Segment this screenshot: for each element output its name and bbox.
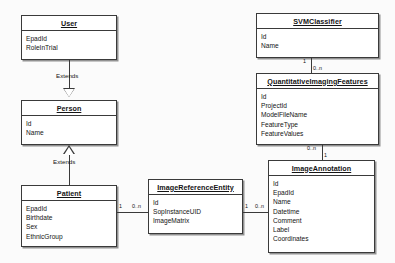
attribute-row: EpadId (273, 188, 374, 197)
attribute-row: EpadId (26, 34, 116, 43)
class-title-quantitativeimagingfeatures: QuantitativeImagingFeatures (257, 74, 378, 89)
multiplicity-imageannotation-left-side: 0..n (255, 203, 264, 209)
class-title-person: Person (22, 101, 116, 116)
edge-quantitativeimagingfeatures-imageannotation (322, 145, 323, 160)
attribute-row: EpadId (26, 204, 116, 213)
class-box-patient[interactable]: Patient EpadId Birthdate Sex EthnicGroup (21, 185, 117, 247)
class-title-imageannotation: ImageAnnotation (269, 161, 374, 176)
multiplicity-imagereferenceentity-right-side: 1 (245, 203, 248, 209)
class-box-svmclassifier[interactable]: SVMClassifier Id Name (256, 13, 379, 58)
attribute-row: Comment (273, 216, 374, 225)
edge-svmclassifier-quantitativeimagingfeatures (311, 58, 312, 73)
generalization-arrowhead-person-fill (64, 89, 74, 97)
attribute-row: Label (273, 225, 374, 234)
multiplicity-imageannotation-top-side: 1 (324, 152, 327, 158)
class-attributes-quantitativeimagingfeatures: Id ProjectId ModelFileName FeatureType F… (257, 89, 378, 141)
class-box-person[interactable]: Person Id Name (21, 100, 117, 145)
class-attributes-svmclassifier: Id Name (257, 29, 378, 53)
edge-imagereferenceentity-imageannotation (243, 212, 268, 213)
attribute-row: Name (26, 128, 116, 137)
class-box-user[interactable]: User EpadId RoleInTrial (21, 15, 117, 60)
class-attributes-imageannotation: Id EpadId Name Datetime Comment Label Co… (269, 176, 374, 246)
uml-class-diagram: User EpadId RoleInTrial Person Id Name P… (0, 0, 395, 263)
multiplicity-svmclassifier-side: 1 (303, 58, 306, 64)
attribute-row: Id (261, 92, 378, 101)
multiplicity-imagereferenceentity-side: 0..n (132, 203, 141, 209)
attribute-row: ModelFileName (261, 110, 378, 119)
attribute-row: Name (261, 41, 378, 50)
attribute-row: EthnicGroup (26, 232, 116, 241)
class-attributes-patient: EpadId Birthdate Sex EthnicGroup (22, 201, 116, 244)
class-attributes-person: Id Name (22, 116, 116, 140)
relationship-label-user-extends-person: Extends (56, 72, 78, 79)
class-attributes-imagereferenceentity: Id SopInstanceUID ImageMatrix (149, 195, 242, 229)
attribute-row: Id (273, 179, 374, 188)
attribute-row: Name (273, 197, 374, 206)
class-title-svmclassifier: SVMClassifier (257, 14, 378, 29)
multiplicity-quantitativeimagingfeatures-bottom-side: 0..n (307, 145, 316, 151)
attribute-row: Birthdate (26, 213, 116, 222)
class-box-imagereferenceentity[interactable]: ImageReferenceEntity Id SopInstanceUID I… (148, 179, 243, 234)
attribute-row: RoleInTrial (26, 43, 116, 52)
attribute-row: Id (26, 119, 116, 128)
multiplicity-patient-side: 1 (119, 203, 122, 209)
attribute-row: Sex (26, 222, 116, 231)
multiplicity-quantitativeimagingfeatures-top-side: 0..n (313, 65, 322, 71)
generalization-arrowhead-person-2-fill (64, 147, 74, 155)
class-box-imageannotation[interactable]: ImageAnnotation Id EpadId Name Datetime … (268, 160, 375, 253)
attribute-row: ProjectId (261, 101, 378, 110)
class-box-quantitativeimagingfeatures[interactable]: QuantitativeImagingFeatures Id ProjectId… (256, 73, 379, 145)
attribute-row: Id (261, 32, 378, 41)
edge-patient-imagereferenceentity (117, 212, 148, 213)
class-title-imagereferenceentity: ImageReferenceEntity (149, 180, 242, 195)
attribute-row: SopInstanceUID (153, 207, 242, 216)
class-title-patient: Patient (22, 186, 116, 201)
attribute-row: FeatureType (261, 120, 378, 129)
attribute-row: Datetime (273, 207, 374, 216)
attribute-row: Coordinates (273, 234, 374, 243)
attribute-row: ImageMatrix (153, 216, 242, 225)
class-attributes-user: EpadId RoleInTrial (22, 31, 116, 55)
class-title-user: User (22, 16, 116, 31)
attribute-row: FeatureValues (261, 129, 378, 138)
relationship-label-patient-extends-person: Extends (53, 158, 75, 165)
attribute-row: Id (153, 198, 242, 207)
